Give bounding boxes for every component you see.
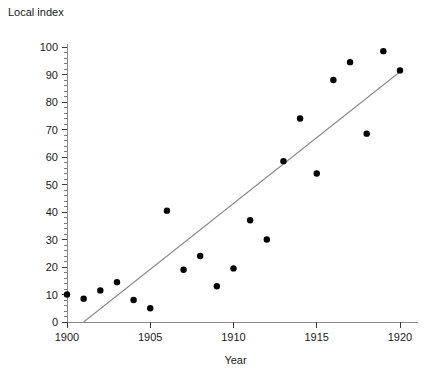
- data-point: [197, 253, 203, 259]
- data-point: [230, 265, 236, 271]
- y-axis-tick-label: 90: [46, 69, 58, 81]
- data-point: [397, 67, 403, 73]
- y-axis-tick-label: 20: [46, 261, 58, 273]
- y-axis-tick-label: 100: [40, 41, 58, 53]
- data-point: [114, 279, 120, 285]
- x-axis-tick-label: 1900: [55, 331, 79, 343]
- data-point: [130, 297, 136, 303]
- y-axis-tick-label: 50: [46, 179, 58, 191]
- y-axis-tick-label: 70: [46, 124, 58, 136]
- y-axis-tick-label: 40: [46, 206, 58, 218]
- fitted-regression-line: [84, 72, 400, 322]
- x-axis-title: Year: [224, 354, 247, 366]
- data-point: [280, 158, 286, 164]
- plot-area: 0102030405060708090100190019051910191519…: [0, 0, 428, 378]
- data-point: [97, 287, 103, 293]
- data-point: [147, 305, 153, 311]
- data-point: [80, 295, 86, 301]
- data-point: [330, 77, 336, 83]
- data-point: [164, 207, 170, 213]
- data-point: [380, 48, 386, 54]
- x-axis-tick-label: 1910: [221, 331, 245, 343]
- data-point: [180, 267, 186, 273]
- data-point: [247, 217, 253, 223]
- y-axis-tick-label: 10: [46, 289, 58, 301]
- data-point: [347, 59, 353, 65]
- data-point: [264, 236, 270, 242]
- data-point: [214, 283, 220, 289]
- scatter-chart: Local index 0102030405060708090100190019…: [0, 0, 428, 378]
- data-point: [314, 170, 320, 176]
- data-point: [364, 130, 370, 136]
- data-point: [64, 291, 70, 297]
- y-axis-tick-label: 30: [46, 234, 58, 246]
- x-axis-tick-label: 1915: [305, 331, 329, 343]
- x-axis-tick-label: 1905: [138, 331, 162, 343]
- x-axis-tick-label: 1920: [388, 331, 412, 343]
- data-point: [297, 115, 303, 121]
- y-axis-tick-label: 60: [46, 151, 58, 163]
- y-axis-tick-label: 80: [46, 96, 58, 108]
- y-axis-tick-label: 0: [52, 316, 58, 328]
